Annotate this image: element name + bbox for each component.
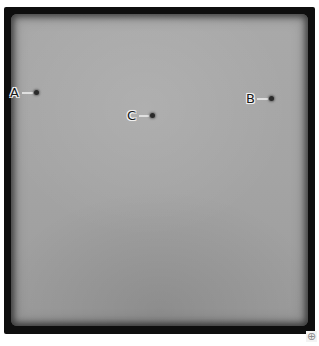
leader-line-c	[139, 115, 149, 117]
resize-handle-icon[interactable]: ⊕	[306, 331, 317, 342]
image-frame	[4, 7, 315, 334]
marker-label-b: B	[246, 92, 255, 105]
point-marker-c	[150, 113, 155, 118]
point-marker-b	[269, 96, 274, 101]
image-panel	[11, 14, 308, 326]
marker-label-a: A	[10, 86, 19, 99]
point-marker-a	[34, 90, 39, 95]
marker-label-c: C	[127, 109, 136, 122]
leader-line-a	[22, 92, 33, 94]
leader-line-b	[257, 98, 268, 100]
